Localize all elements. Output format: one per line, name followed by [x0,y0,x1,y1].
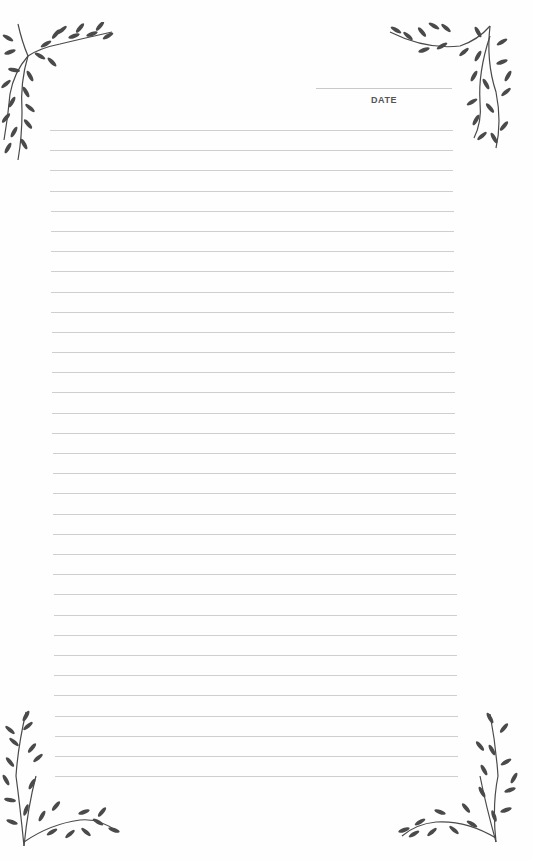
ruled-line [54,594,457,595]
ruled-line [51,271,454,272]
ruled-line [53,493,456,494]
ruled-line [53,453,456,454]
ruled-line [51,231,454,232]
ruled-line [53,534,456,535]
ruled-line [52,413,455,414]
ruled-line [51,211,454,212]
ruled-line [53,473,456,474]
ruled-line [52,332,455,333]
journal-page: DATE [0,0,533,861]
ruled-line [51,292,454,293]
ruled-line [50,170,453,171]
ruled-line [54,655,457,656]
ruled-line [53,554,456,555]
bottom-left-vine-icon [0,706,130,856]
ruled-line [50,191,453,192]
ruled-line [54,615,457,616]
top-right-vine-icon [386,22,526,162]
ruled-line [54,695,457,696]
top-left-vine-icon [0,22,120,162]
ruled-line [54,635,457,636]
bottom-right-vine-icon [396,706,533,856]
ruled-line [52,372,455,373]
ruled-line [54,675,457,676]
ruled-line [53,574,456,575]
ruled-line [51,251,454,252]
ruled-line [52,352,455,353]
ruled-line [52,433,455,434]
ruled-line [53,514,456,515]
ruled-line [52,392,455,393]
ruled-line [51,312,454,313]
